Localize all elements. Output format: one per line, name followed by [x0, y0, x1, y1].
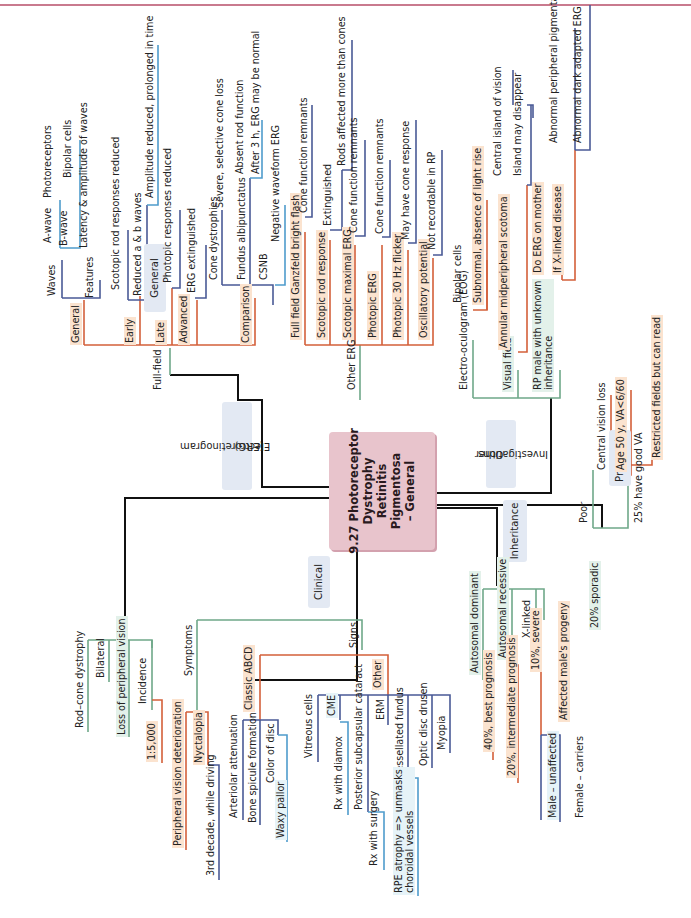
node-abnormal-pigmentation[interactable]: Abnormal peripheral pigmentation — [548, 0, 560, 145]
node-myopia[interactable]: Myopia — [436, 714, 448, 752]
node-tessellated[interactable]: Tessellated fundus — [394, 685, 406, 778]
category-inheritance[interactable]: Inheritance — [503, 500, 527, 562]
node-late[interactable]: Late — [155, 320, 167, 345]
node-rpe-atrophy[interactable]: RPE atrophy => unmaskschoroidal vessels — [393, 767, 415, 895]
category-erg[interactable]: Electroretinogram(ERG) — [222, 402, 252, 490]
node-b-wave[interactable]: B-wave — [58, 209, 70, 248]
node-oscillatory[interactable]: Oscillatory potential — [418, 239, 430, 340]
erg-line2: (ERG) — [204, 440, 294, 452]
node-bilateral[interactable]: Bilateral — [95, 636, 107, 680]
center-line-4: Pigmentosa — [389, 453, 403, 530]
node-rod-cone[interactable]: Rod–cone dystrophy — [74, 629, 86, 730]
node-bone-spicule[interactable]: Bone spicule formation — [247, 710, 259, 825]
node-arteriolar[interactable]: Arteriolar attenuation — [228, 712, 240, 820]
node-comparison[interactable]: Comparison — [240, 284, 252, 345]
node-classic-abcd[interactable]: Classic ABCD — [243, 645, 255, 712]
node-not-recordable[interactable]: Not recordable in RP — [426, 150, 438, 252]
node-full-field[interactable]: Full-field — [152, 347, 164, 392]
node-abnormal-dark-erg[interactable]: Abnormal dark adapted ERG — [572, 4, 584, 145]
node-scotopic-rod[interactable]: Scotopic rod response — [316, 230, 328, 340]
node-cone-response[interactable]: May have cone response — [400, 119, 412, 242]
node-erm[interactable]: ERM — [375, 697, 387, 722]
node-male-unaffected[interactable]: Male – unaffected — [547, 731, 559, 820]
node-latency[interactable]: Latency & amplitude of waves — [78, 100, 90, 250]
node-psc[interactable]: Posterior subcapsular cataract — [353, 662, 365, 812]
center-line-5: – General — [403, 461, 417, 521]
node-diamox[interactable]: Rx with diamox — [333, 734, 345, 812]
node-island-disappear[interactable]: Island may disappear — [512, 71, 524, 178]
node-affected-progeny[interactable]: Affected male's progeny — [558, 601, 570, 722]
node-negative-waveform[interactable]: Negative waveform ERG — [270, 123, 282, 244]
central-topic[interactable]: 9.27 Photoreceptor Dystrophy Retinitis P… — [329, 432, 435, 550]
node-sporadic[interactable]: 20% sporadic — [589, 561, 601, 630]
node-cme[interactable]: CME — [326, 693, 338, 718]
node-color-disc[interactable]: Color of disc — [265, 722, 277, 785]
node-x-linked-disease[interactable]: If X-linked disease — [552, 184, 564, 275]
node-good-va[interactable]: 25% have good VA — [633, 431, 645, 525]
node-nyctalopia[interactable]: Nyctalopia — [193, 710, 205, 765]
node-amplitude-reduced[interactable]: Amplitude reduced, prolonged in time — [144, 14, 156, 200]
center-line-3: Retinitis — [375, 464, 389, 519]
node-incidence[interactable]: Incidence — [137, 656, 149, 706]
node-rx-surgery[interactable]: Rx with surgery — [368, 789, 380, 868]
node-loss-peripheral[interactable]: Loss of peripheral vision — [116, 616, 128, 737]
node-photopic-cone[interactable]: Cone function remnants — [374, 116, 386, 236]
node-photopic-erg[interactable]: Photopic ERG — [367, 271, 379, 340]
node-central-vision-loss[interactable]: Central vision loss — [596, 380, 608, 472]
node-vitreous[interactable]: Vitreous cells — [303, 692, 315, 760]
node-erg-general[interactable]: General — [70, 303, 82, 345]
node-ad-detail[interactable]: 40%, best prognosis — [483, 650, 495, 752]
node-restricted-fields[interactable]: Restricted fields but can read — [651, 315, 663, 460]
node-csnb[interactable]: CSNB — [258, 251, 270, 282]
node-drusen[interactable]: Optic disc drusen — [418, 680, 430, 768]
node-other-signs[interactable]: Other — [372, 659, 384, 690]
node-female-carriers[interactable]: Female – carriers — [574, 734, 586, 820]
node-scotopic-reduced[interactable]: Scotopic rod responses reduced — [110, 135, 122, 292]
node-bipolar-cells[interactable]: Bipolar cells — [62, 118, 74, 180]
category-other-investigations[interactable]: OtherInvestigations — [486, 420, 516, 488]
node-other-erg[interactable]: Other ERG — [346, 338, 358, 392]
node-x-linked-severe[interactable]: 10%, severe — [530, 608, 542, 672]
node-erg-mother[interactable]: Do ERG on mother — [532, 182, 544, 275]
node-autosomal-dominant[interactable]: Autosomal dominant — [469, 571, 481, 675]
node-waxy-pallor[interactable]: Waxy pallor — [275, 780, 287, 840]
node-scotopic-max-cone[interactable]: Cone function remnants — [348, 115, 360, 235]
node-a-wave[interactable]: A-wave — [42, 206, 54, 245]
node-3rd-decade[interactable]: 3rd decade, while driving — [205, 752, 217, 878]
node-photoreceptors[interactable]: Photoreceptors — [42, 123, 54, 200]
node-early[interactable]: Early — [124, 317, 136, 345]
node-waves[interactable]: Waves — [46, 263, 58, 298]
node-annular-scotoma[interactable]: Annular midperipheral scotoma — [498, 194, 510, 350]
node-features[interactable]: Features — [84, 255, 96, 300]
node-reduced-ab[interactable]: Reduced a & b waves — [132, 190, 144, 298]
node-ar-detail[interactable]: 20%, intermediate prognosis — [506, 635, 518, 778]
center-line-2: Dystrophy — [361, 458, 375, 525]
node-fundus-albipunctatus[interactable]: Fundus albipunctatus — [236, 175, 248, 282]
node-rods-affected[interactable]: Rods affected more than cones — [336, 14, 348, 168]
node-central-island[interactable]: Central island of vision — [492, 64, 504, 178]
other-line2: Investigations — [478, 448, 548, 460]
node-subnormal[interactable]: Subnormal, absence of light rise — [472, 146, 484, 305]
node-scotopic-max[interactable]: Scotopic maximal ERG — [342, 227, 354, 340]
node-after-3h[interactable]: After 3 h, ERG may be normal — [250, 29, 262, 176]
node-age-50[interactable]: Age 50 y, VA<6/60 — [615, 377, 627, 472]
node-flicker[interactable]: Photopic 30 Hz flicker — [392, 232, 404, 340]
center-line-1: 9.27 Photoreceptor — [347, 428, 361, 554]
node-severe-cone-loss[interactable]: Severe, selective cone loss — [214, 76, 226, 210]
node-incidence-value[interactable]: 1:5,000 — [146, 721, 158, 762]
node-ganzfeld-cone[interactable]: Cone function remnants — [298, 95, 310, 215]
node-extinguished[interactable]: Extinguished — [322, 162, 334, 228]
node-peripheral-deterioration[interactable]: Peripheral vision deterioration — [172, 699, 184, 848]
node-eog-bipolar[interactable]: Bipolar cells — [452, 243, 464, 305]
node-advanced[interactable]: Advanced — [178, 294, 190, 345]
node-rp-male[interactable]: RP male with unknowninheritance — [532, 279, 554, 392]
node-absent-rod[interactable]: Absent rod function — [234, 78, 246, 176]
category-clinical[interactable]: Clinical — [308, 556, 330, 608]
node-photopic-reduced[interactable]: Photopic responses reduced — [162, 146, 174, 285]
node-erg-extinguished[interactable]: ERG extinguished — [186, 206, 198, 295]
node-symptoms[interactable]: Symptoms — [183, 623, 195, 678]
node-signs[interactable]: Signs — [348, 620, 360, 650]
node-poor[interactable]: Poor — [578, 500, 590, 525]
